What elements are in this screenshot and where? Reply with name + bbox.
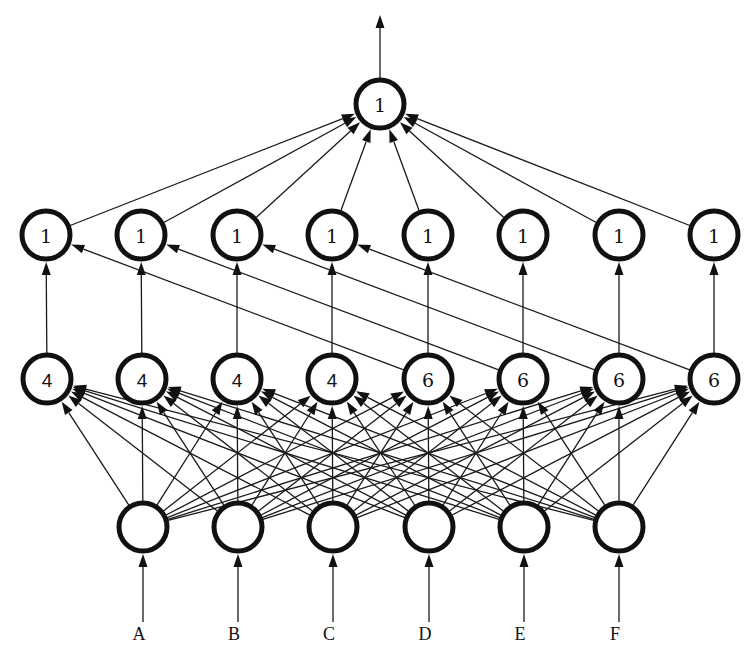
node-label: 1 (40, 225, 52, 247)
output-node-0: 1 (356, 80, 404, 128)
hidden1-node-6: 6 (595, 355, 643, 403)
hidden1-node-0: 4 (23, 355, 71, 403)
edge-hidden1-6-to-hidden2-6 (615, 262, 624, 353)
arrowhead-icon (362, 129, 371, 143)
input-label-A: A (133, 624, 146, 644)
arrowhead-icon (498, 402, 509, 415)
arrowhead-icon (166, 245, 180, 254)
arrowhead-icon (139, 554, 148, 567)
input-label-C: C (323, 624, 335, 644)
input-node-4 (500, 503, 548, 551)
node-label: 6 (708, 369, 720, 391)
edge-hidden1-7-to-hidden2-7 (710, 262, 719, 353)
edge-hidden1-0-to-hidden2-0 (42, 262, 51, 353)
hidden2-node-6: 1 (595, 211, 643, 259)
arrowhead-icon (376, 15, 385, 28)
hidden2-node-0: 1 (22, 211, 70, 259)
edge-hidden2-6-to-output (404, 117, 597, 223)
edge-input5-to-hidden1-6 (615, 406, 624, 501)
input-label-D: D (419, 624, 432, 644)
edge-input4-to-hidden1-0 (73, 387, 499, 520)
arrowhead-icon (357, 245, 371, 254)
node-label: 1 (517, 225, 529, 247)
input-arrow-D (425, 554, 434, 622)
input-arrow-C (329, 554, 338, 622)
node-label: 1 (326, 225, 338, 247)
input-node-3 (405, 503, 453, 551)
arrowhead-icon (449, 396, 462, 408)
edge-hidden2-7-to-output (405, 114, 690, 226)
arrowhead-icon (519, 262, 528, 275)
hidden2-node-7: 1 (690, 211, 738, 259)
neural-network-diagram: 44446666111111111 ABCDEF (0, 0, 756, 660)
arrowhead-icon (425, 554, 434, 567)
input-label-B: B (228, 624, 240, 644)
node-label: 1 (708, 225, 720, 247)
node-circle-shape (500, 503, 548, 551)
hidden2-node-4: 1 (404, 211, 452, 259)
arrowhead-icon (443, 402, 454, 415)
input-node-0 (119, 503, 167, 551)
input-arrow-B (234, 554, 243, 622)
input-node-2 (309, 503, 357, 551)
node-label: 1 (422, 225, 434, 247)
node-circle-shape (405, 503, 453, 551)
node-label: 4 (137, 370, 148, 391)
hidden1-node-7: 6 (690, 355, 738, 403)
edge-hidden2-5-to-output (400, 122, 504, 217)
hidden2-node-3: 1 (308, 211, 356, 259)
node-label: 1 (135, 225, 147, 247)
arrowhead-icon (328, 262, 337, 275)
node-label: 6 (422, 369, 434, 391)
hidden1-node-4: 6 (404, 355, 452, 403)
node-circle-shape (214, 503, 262, 551)
nodes-group: 44446666111111111 (22, 80, 738, 551)
hidden1-node-3: 4 (308, 355, 356, 403)
input-labels-group: ABCDEF (133, 624, 621, 644)
edge-hidden2-1-to-output (164, 117, 357, 223)
arrowhead-icon (710, 262, 719, 275)
edge-input2-to-hidden1-0 (71, 391, 310, 515)
node-label: 1 (374, 94, 386, 116)
node-label: 6 (613, 369, 625, 391)
node-label: 4 (232, 370, 243, 391)
node-circle-shape (595, 503, 643, 551)
hidden2-node-5: 1 (499, 211, 547, 259)
input-arrow-A (139, 554, 148, 622)
arrowhead-icon (615, 262, 624, 275)
arrowhead-icon (403, 402, 414, 415)
node-label: 1 (613, 225, 625, 247)
output-arrow (376, 15, 385, 78)
arrowhead-icon (62, 402, 73, 415)
node-label: 1 (231, 225, 243, 247)
arrowhead-icon (538, 402, 549, 415)
input-arrow-F (615, 554, 624, 622)
edge-hidden2-4-to-output (389, 129, 419, 210)
arrowhead-icon (520, 554, 529, 567)
edge-hidden2-0-to-output (70, 114, 355, 226)
arrowhead-icon (689, 402, 700, 415)
input-node-1 (214, 503, 262, 551)
node-label: 6 (517, 369, 529, 391)
edge-hidden2-3-to-output (341, 129, 371, 210)
arrowhead-icon (71, 245, 85, 254)
arrowhead-icon (389, 129, 398, 143)
edge-hidden1-1-to-hidden2-1 (137, 262, 146, 353)
node-label: 4 (327, 370, 338, 391)
arrowhead-icon (615, 554, 624, 567)
input-label-F: F (610, 624, 620, 644)
node-circle-shape (119, 503, 167, 551)
input-node-5 (595, 503, 643, 551)
node-label: 4 (42, 370, 53, 391)
hidden1-node-5: 6 (499, 355, 547, 403)
node-circle-shape (309, 503, 357, 551)
arrowhead-icon (424, 406, 433, 419)
hidden1-node-1: 4 (118, 355, 166, 403)
edge-input5-to-hidden1-7 (633, 402, 699, 505)
hidden1-node-2: 4 (213, 355, 261, 403)
arrowhead-icon (42, 262, 51, 275)
arrowhead-icon (234, 554, 243, 567)
hidden2-node-1: 1 (117, 211, 165, 259)
arrowhead-icon (137, 262, 146, 275)
hidden2-node-2: 1 (213, 211, 261, 259)
